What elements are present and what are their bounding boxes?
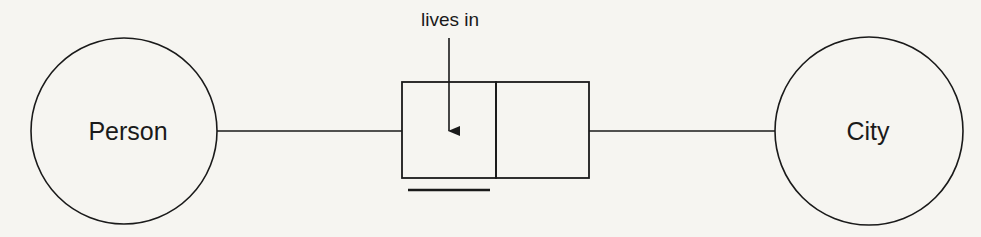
predicate-label: lives in bbox=[421, 9, 479, 31]
entity-person-label: Person bbox=[88, 117, 167, 146]
role-box-2[interactable] bbox=[496, 82, 589, 178]
entity-city-label: City bbox=[846, 117, 889, 146]
